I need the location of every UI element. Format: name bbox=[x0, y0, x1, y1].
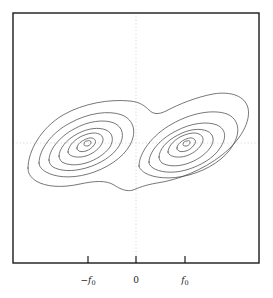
tick-label-f0: f0 bbox=[180, 275, 188, 287]
contour-plot-figure: −f0 0 f0 bbox=[0, 0, 273, 298]
subscript-zero: 0 bbox=[185, 279, 189, 287]
zero-symbol: 0 bbox=[133, 275, 139, 285]
tick-label-zero: 0 bbox=[133, 275, 139, 285]
subscript-zero: 0 bbox=[91, 279, 95, 287]
tick-labels: −f0 0 f0 bbox=[80, 275, 188, 287]
tick-label-minus-f0: −f0 bbox=[80, 275, 95, 287]
minus-sign: − bbox=[80, 275, 88, 285]
